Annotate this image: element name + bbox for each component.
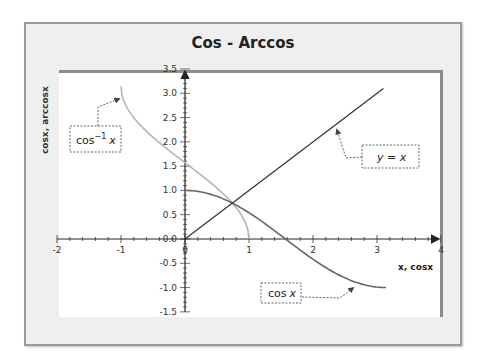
chart-svg: -2-101234 3.53.02.52.01.51.00.50.0-0.5-1…: [0, 0, 485, 364]
x-tick-label: -2: [53, 245, 62, 255]
x-axis-label: x, cosx: [398, 262, 433, 272]
y-tick-label: 0.0: [163, 234, 178, 244]
annotation-cos: cosx: [261, 283, 353, 303]
y-tick-label: 3.5: [163, 64, 177, 74]
x-tick-label: 1: [246, 245, 252, 255]
y-tick-label: 2.0: [163, 137, 178, 147]
y-tick-label: 1.0: [163, 185, 178, 195]
y-tick-label: 2.5: [163, 113, 177, 123]
x-tick-label: -1: [117, 245, 126, 255]
x-tick-label: 3: [374, 245, 380, 255]
x-tick-label: 2: [310, 245, 316, 255]
y-tick-label: 1.5: [163, 161, 177, 171]
y-tick-label: -1.5: [159, 307, 177, 317]
svg-text:cosx: cosx: [268, 287, 297, 300]
annotation-arccos: cos−1x: [70, 99, 121, 152]
series-identity-line: [185, 88, 383, 239]
y-tick-label: -1.0: [159, 283, 177, 293]
y-tick-label: 0.5: [163, 210, 177, 220]
y-tick-label: -0.5: [159, 258, 177, 268]
svg-text:y = x: y = x: [376, 151, 407, 164]
y-tick-label: 3.0: [163, 88, 178, 98]
annotation-identity: y = x: [337, 130, 419, 168]
x-tick-label: 4: [438, 245, 444, 255]
